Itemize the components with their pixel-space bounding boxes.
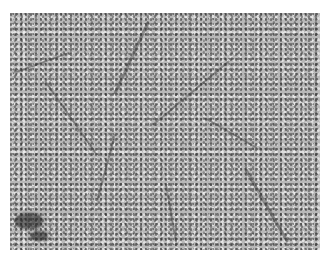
septum-line (165, 183, 177, 242)
septum-line (205, 117, 258, 149)
septum-line (113, 21, 150, 95)
septum-line (44, 81, 97, 156)
septum-line (244, 168, 289, 243)
histology-micrograph (10, 13, 320, 250)
dark-cell-cluster (15, 213, 43, 229)
septum-line (12, 52, 69, 74)
dark-cell-cluster (30, 231, 48, 241)
septum-line (152, 60, 230, 126)
septum-line (96, 134, 116, 202)
